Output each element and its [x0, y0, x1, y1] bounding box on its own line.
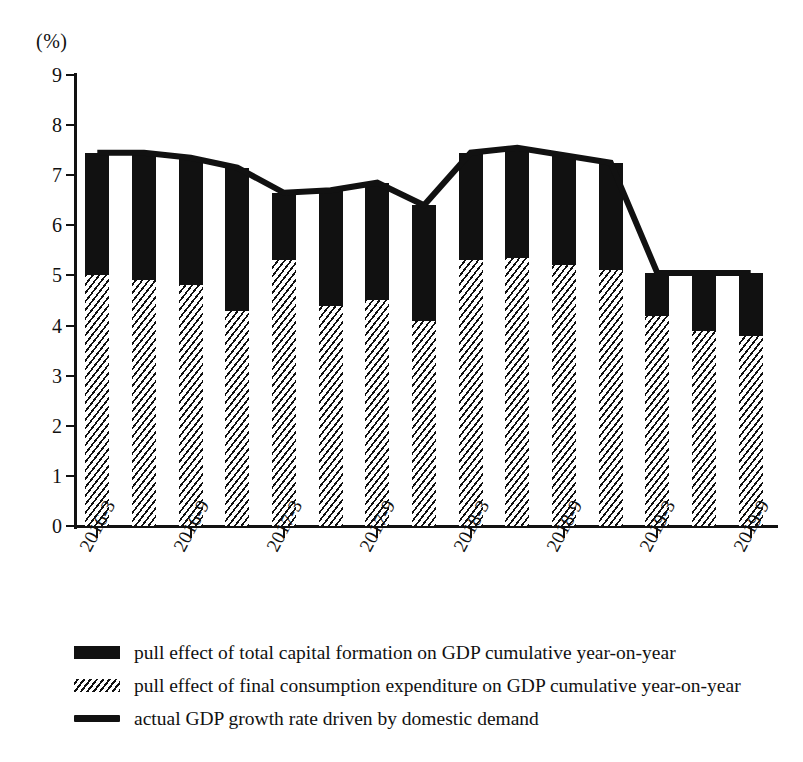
- y-axis-tick: [66, 224, 76, 226]
- bar-segment-consumption-expenditure: [85, 275, 109, 526]
- y-axis-tick: [66, 325, 76, 327]
- legend-label-gdp-growth-rate: actual GDP growth rate driven by domesti…: [134, 708, 539, 729]
- bar-segment-consumption-expenditure: [599, 270, 623, 526]
- y-axis-tick: [66, 274, 76, 276]
- y-axis-tick: [66, 525, 76, 527]
- y-axis-tick-label: 9: [32, 65, 62, 85]
- bar-column: [85, 153, 109, 526]
- bar-column: [365, 183, 389, 526]
- bar-segment-capital-formation: [645, 273, 669, 316]
- bar-segment-capital-formation: [272, 193, 296, 261]
- legend-item-gdp-growth-rate: actual GDP growth rate driven by domesti…: [74, 702, 774, 735]
- bar-segment-consumption-expenditure: [319, 306, 343, 526]
- bar-column: [132, 153, 156, 526]
- bar-segment-consumption-expenditure: [179, 285, 203, 526]
- bar-segment-consumption-expenditure: [272, 260, 296, 526]
- y-axis-unit-label: (%): [36, 30, 67, 53]
- gdp-growth-drivers-chart: (%) 0123456789 2016-32016-92017-32017-92…: [0, 0, 803, 762]
- bar-column: [459, 153, 483, 526]
- y-axis-tick: [66, 74, 76, 76]
- bar-column: [272, 193, 296, 526]
- bar-segment-capital-formation: [85, 153, 109, 276]
- bar-column: [412, 205, 436, 526]
- y-axis-tick: [66, 425, 76, 427]
- bar-segment-capital-formation: [692, 273, 716, 331]
- chart-legend: pull effect of total capital formation o…: [74, 636, 774, 735]
- bar-column: [692, 273, 716, 526]
- y-axis-line: [74, 73, 77, 529]
- y-axis-tick-label: 6: [32, 215, 62, 235]
- y-axis-tick-label: 1: [32, 466, 62, 486]
- y-axis-tick: [66, 375, 76, 377]
- legend-label-capital-formation: pull effect of total capital formation o…: [134, 642, 676, 663]
- y-axis-tick-label: 7: [32, 165, 62, 185]
- legend-item-consumption-expenditure: pull effect of final consumption expendi…: [74, 669, 774, 702]
- y-axis-tick-label: 4: [32, 316, 62, 336]
- y-axis-tick: [66, 124, 76, 126]
- bar-segment-consumption-expenditure: [225, 311, 249, 526]
- y-axis-tick-label: 8: [32, 115, 62, 135]
- bar-column: [739, 273, 763, 526]
- y-axis-tick: [66, 174, 76, 176]
- y-axis-tick-label: 3: [32, 366, 62, 386]
- bar-column: [645, 273, 669, 526]
- bar-segment-consumption-expenditure: [365, 300, 389, 526]
- bar-segment-capital-formation: [739, 273, 763, 336]
- legend-item-capital-formation: pull effect of total capital formation o…: [74, 636, 774, 669]
- legend-label-consumption-expenditure: pull effect of final consumption expendi…: [134, 675, 741, 696]
- y-axis-tick-label: 5: [32, 265, 62, 285]
- bar-segment-capital-formation: [505, 148, 529, 258]
- bar-segment-consumption-expenditure: [552, 265, 576, 526]
- bar-segment-consumption-expenditure: [132, 280, 156, 526]
- bar-segment-capital-formation: [412, 205, 436, 320]
- legend-hatched-swatch-icon: [74, 679, 120, 692]
- bar-segment-capital-formation: [319, 190, 343, 305]
- bar-segment-capital-formation: [132, 153, 156, 281]
- y-axis-tick: [66, 475, 76, 477]
- bar-column: [552, 155, 576, 526]
- bar-segment-consumption-expenditure: [459, 260, 483, 526]
- bar-segment-capital-formation: [225, 168, 249, 311]
- bar-segment-capital-formation: [459, 153, 483, 261]
- bar-segment-capital-formation: [599, 163, 623, 271]
- y-axis-tick-label: 2: [32, 416, 62, 436]
- bar-segment-consumption-expenditure: [692, 331, 716, 526]
- bar-column: [319, 190, 343, 526]
- legend-line-swatch-icon: [74, 712, 120, 725]
- bar-segment-capital-formation: [365, 183, 389, 301]
- bar-column: [179, 158, 203, 526]
- bar-column: [505, 148, 529, 526]
- bar-segment-consumption-expenditure: [645, 316, 669, 526]
- bar-column: [599, 163, 623, 526]
- bar-segment-consumption-expenditure: [505, 258, 529, 526]
- bar-segment-consumption-expenditure: [412, 321, 436, 526]
- bar-segment-capital-formation: [552, 155, 576, 265]
- bar-segment-capital-formation: [179, 158, 203, 286]
- y-axis-tick-label: 0: [32, 516, 62, 536]
- legend-line-swatch-bar: [74, 715, 120, 722]
- bar-column: [225, 168, 249, 526]
- legend-solid-swatch-icon: [74, 646, 120, 659]
- bar-segment-consumption-expenditure: [739, 336, 763, 526]
